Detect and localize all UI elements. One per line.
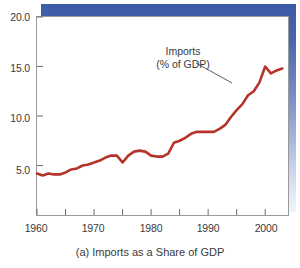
figure-container: 20.0 15.0 10.0 5.0 1960 1970 1980 1990 2… bbox=[0, 0, 300, 268]
figure-caption: (a) Imports as a Share of GDP bbox=[0, 246, 300, 258]
chart-svg bbox=[0, 0, 300, 268]
annotation-leader-line bbox=[196, 63, 232, 83]
series-line-imports bbox=[37, 67, 282, 176]
